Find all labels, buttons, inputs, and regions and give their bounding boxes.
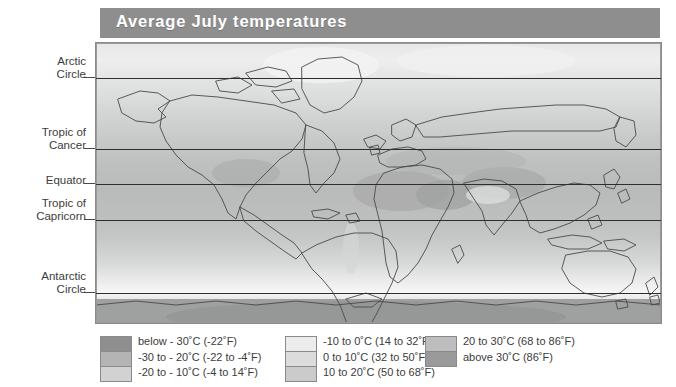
legend-swatch [426, 352, 456, 366]
legend-label: -10 to 0˚C (14 to 32˚F) [323, 334, 435, 350]
latitude-line-arctic-circle [96, 78, 661, 79]
legend-swatch-stack [100, 336, 132, 382]
legend-swatch [101, 367, 131, 381]
legend-label: 20 to 30˚C (68 to 86˚F) [463, 334, 575, 350]
legend-label: 0 to 10˚C (32 to 50˚F) [323, 350, 435, 366]
legend-label: -30 to - 20˚C (-22 to -4˚F) [138, 350, 261, 366]
legend-swatch-stack [285, 336, 317, 382]
latitude-line-antarctic-circle [96, 293, 661, 294]
map-canvas [96, 43, 661, 323]
latitude-label-equator: Equator [0, 174, 86, 187]
legend-label: below - 30˚C (-22˚F) [138, 334, 261, 350]
legend-label: -20 to - 10˚C (-4 to 14˚F) [138, 365, 261, 381]
legend-label-group: -10 to 0˚C (14 to 32˚F)0 to 10˚C (32 to … [323, 334, 435, 381]
legend-swatch [286, 337, 316, 352]
legend-swatch [286, 367, 316, 381]
legend-swatch [426, 337, 456, 352]
legend-swatch [101, 337, 131, 352]
legend-label: above 30˚C (86˚F) [463, 350, 575, 366]
title-bar: Average July temperatures [100, 8, 660, 38]
latitude-line-tropic-of-cancer [96, 149, 661, 150]
latitude-line-tropic-of-capricorn [96, 220, 661, 221]
world-map [95, 42, 662, 324]
legend-label-group: 20 to 30˚C (68 to 86˚F)above 30˚C (86˚F) [463, 334, 575, 365]
legend-swatch [101, 352, 131, 367]
latitude-line-equator [96, 184, 661, 185]
page-title: Average July temperatures [116, 12, 347, 31]
legend-swatch-stack [425, 336, 457, 367]
latitude-label-antarctic-circle: Antarctic Circle [0, 270, 86, 296]
latitude-label-tropic-of-capricorn: Tropic of Capricorn [0, 197, 86, 223]
legend-swatch [286, 352, 316, 367]
map-figure: Average July temperatures Arctic CircleT… [0, 0, 676, 387]
latitude-label-tropic-of-cancer: Tropic of Cancer [0, 126, 86, 152]
legend: below - 30˚C (-22˚F)-30 to - 20˚C (-22 t… [100, 334, 630, 384]
legend-label-group: below - 30˚C (-22˚F)-30 to - 20˚C (-22 t… [138, 334, 261, 381]
latitude-label-arctic-circle: Arctic Circle [0, 55, 86, 81]
legend-label: 10 to 20˚C (50 to 68˚F) [323, 365, 435, 381]
